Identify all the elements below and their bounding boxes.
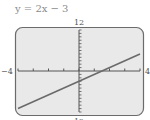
x-min-label: −4	[1, 67, 13, 76]
y-min-label: 12	[74, 117, 84, 120]
y-max-label: 12	[74, 18, 84, 27]
graph-screen: −4 4 12 12	[0, 0, 150, 120]
x-max-label: 4	[145, 67, 150, 76]
